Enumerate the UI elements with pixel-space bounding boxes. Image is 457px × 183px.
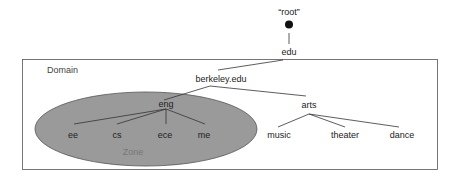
node-eng-label: eng bbox=[158, 99, 173, 109]
node-me-label: me bbox=[198, 130, 211, 140]
edge-edu-berkeley bbox=[218, 60, 283, 70]
node-music-label: music bbox=[267, 130, 291, 140]
zone-label: Zone bbox=[123, 147, 144, 157]
dns-tree-diagram: “root” edu Domain berkeley.edu eng arts … bbox=[0, 0, 457, 183]
node-cs-label: cs bbox=[113, 130, 123, 140]
edge-arts-theater bbox=[309, 114, 345, 127]
edge-arts-dance bbox=[309, 114, 399, 127]
node-berkeley-label: berkeley.edu bbox=[196, 74, 247, 84]
domain-label: Domain bbox=[47, 65, 78, 75]
node-ee-label: ee bbox=[68, 130, 78, 140]
node-arts-label: arts bbox=[301, 100, 317, 110]
root-node-dot bbox=[285, 21, 293, 29]
edge-arts-music bbox=[278, 114, 309, 127]
node-root-label: “root” bbox=[278, 7, 300, 17]
node-dance-label: dance bbox=[390, 130, 415, 140]
node-ece-label: ece bbox=[158, 130, 173, 140]
node-theater-label: theater bbox=[331, 130, 359, 140]
edge-berkeley-arts bbox=[210, 86, 306, 96]
zone-ellipse bbox=[35, 92, 257, 166]
node-edu-label: edu bbox=[281, 47, 296, 57]
